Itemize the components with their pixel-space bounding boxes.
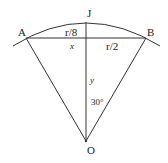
point-o <box>85 140 87 142</box>
radius-oa <box>26 38 86 141</box>
label-r2: r/2 <box>106 41 118 52</box>
label-j: J <box>87 8 91 19</box>
label-angle: 30° <box>91 98 104 107</box>
radius-ob <box>86 38 146 141</box>
label-b: B <box>147 27 154 38</box>
circle-segment-diagram <box>0 0 168 163</box>
label-x: x <box>70 42 74 51</box>
label-o: O <box>87 145 95 156</box>
label-y: y <box>90 76 94 85</box>
label-a: A <box>18 27 26 38</box>
label-r8: r/8 <box>65 27 77 38</box>
